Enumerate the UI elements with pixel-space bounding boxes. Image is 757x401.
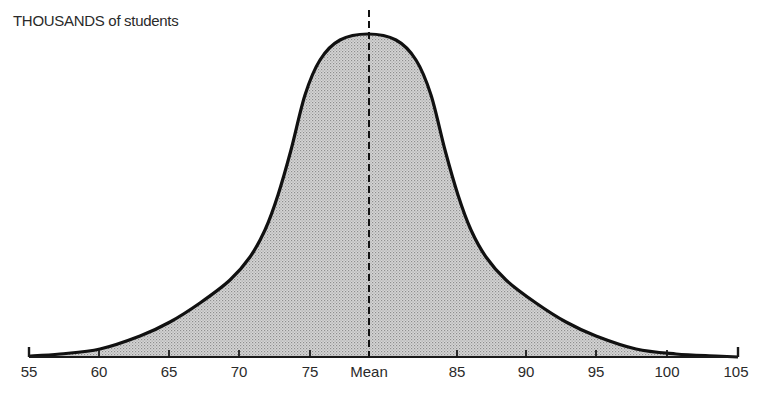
x-tick-label: Mean [350, 363, 388, 380]
x-tick-label: 75 [302, 363, 319, 380]
distribution-area [29, 34, 738, 357]
x-tick-label: 70 [231, 363, 248, 380]
x-axis-tick-labels: 5560657075Mean859095100105 [21, 363, 749, 380]
x-tick-label: 100 [654, 363, 679, 380]
x-tick-label: 105 [723, 363, 748, 380]
x-tick-label: 55 [21, 363, 38, 380]
bell-curve-chart: 5560657075Mean859095100105 [0, 0, 757, 401]
x-tick-label: 65 [161, 363, 178, 380]
x-tick-label: 90 [518, 363, 535, 380]
x-tick-label: 95 [588, 363, 605, 380]
x-tick-label: 60 [91, 363, 108, 380]
x-tick-label: 85 [449, 363, 466, 380]
